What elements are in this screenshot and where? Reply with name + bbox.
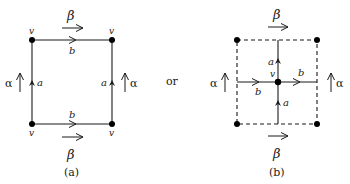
field-label-right: α (130, 77, 138, 90)
panel-b: v a a b b β β α α (b) (210, 7, 344, 179)
vertex (109, 37, 115, 43)
vertex (109, 121, 115, 127)
field-label-left: α (210, 77, 218, 90)
center-vertex (275, 79, 281, 85)
field-label-left: α (5, 77, 13, 90)
panel-a: v v v v b b a a β β α α (a) (5, 8, 138, 179)
vertex (29, 37, 35, 43)
corner-vertex (314, 121, 320, 127)
edge-label-right: b (298, 67, 304, 78)
edge-label-up: a (268, 56, 274, 67)
field-label-bottom: β (66, 147, 75, 162)
edge-label-left: a (37, 77, 43, 88)
connector-text: or (166, 75, 179, 88)
field-label-top: β (66, 8, 75, 23)
vertex (29, 121, 35, 127)
edge-label-down: a (283, 97, 289, 108)
field-label-right: α (336, 77, 344, 90)
edge-label-top: b (69, 45, 75, 56)
center-vertex-label: v (270, 69, 275, 79)
vertex-label: v (29, 128, 34, 138)
corner-vertex (314, 37, 320, 43)
field-label-top: β (272, 7, 281, 22)
lattice-diagram: v v v v b b a a β β α α (a) or (0, 0, 350, 184)
corner-vertex (234, 37, 240, 43)
vertex-label: v (29, 26, 34, 36)
vertex-label: v (109, 128, 114, 138)
edge-label-bottom: b (69, 109, 75, 120)
caption-a: (a) (64, 166, 79, 179)
corner-vertex (234, 121, 240, 127)
vertex-label: v (109, 26, 114, 36)
edge-label-right: a (101, 77, 107, 88)
field-label-bottom: β (272, 146, 281, 161)
caption-b: (b) (269, 166, 285, 179)
edge-label-left: b (255, 86, 261, 97)
